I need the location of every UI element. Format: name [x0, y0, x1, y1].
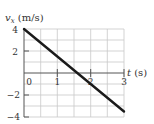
y-tick-label: 2	[12, 47, 18, 57]
x-axis-label: t (s)	[127, 67, 147, 78]
x-tick-label: 1	[54, 77, 60, 87]
x-tick-label: 3	[121, 77, 127, 87]
x-tick-label: 0	[26, 77, 32, 87]
y-tick-label: −2	[7, 90, 20, 100]
y-axis-label: vx (m/s)	[5, 12, 44, 25]
y-tick-label: 4	[12, 25, 18, 35]
y-tick-label: −4	[7, 112, 21, 122]
velocity-time-chart: vx (m/s) 4 2 −2 −4 0 1 2 3 t (s)	[0, 0, 154, 124]
